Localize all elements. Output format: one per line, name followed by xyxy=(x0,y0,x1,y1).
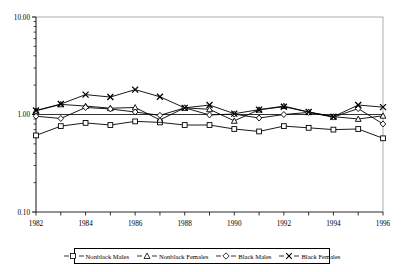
x-tick-label: 1992 xyxy=(277,220,292,228)
data-point xyxy=(182,123,187,128)
legend-label: Nonblack Males xyxy=(86,253,129,260)
chart-legend: Nonblack Males Nonblack Females Black xyxy=(74,248,330,264)
diamond-marker-icon xyxy=(216,251,236,261)
data-point xyxy=(306,125,311,130)
data-point xyxy=(256,115,262,121)
legend-label: Nonblack Females xyxy=(159,253,208,260)
y-tick-label: 1.00 xyxy=(17,111,30,119)
data-point xyxy=(34,133,39,138)
x-tick-label: 1982 xyxy=(29,220,44,228)
data-point xyxy=(58,124,63,129)
y-tick-label: 0.10 xyxy=(17,209,30,217)
line-chart: 10.001.000.10198219841986198819901992199… xyxy=(0,0,402,272)
data-point xyxy=(281,112,287,118)
y-tick-label: 10.00 xyxy=(14,14,31,22)
data-point xyxy=(380,113,386,118)
data-point xyxy=(83,104,89,110)
chart-page: 10.001.000.10198219841986198819901992199… xyxy=(0,0,402,272)
data-point xyxy=(380,121,386,127)
legend-item-nonblack-males[interactable]: Nonblack Males xyxy=(64,251,129,261)
triangle-marker-icon xyxy=(137,251,157,261)
legend-item-black-males[interactable]: Black Males xyxy=(216,251,271,261)
data-point xyxy=(157,94,163,100)
x-tick-label: 1988 xyxy=(178,220,193,228)
x-tick-label: 1984 xyxy=(78,220,93,228)
data-point xyxy=(157,112,163,118)
data-point xyxy=(331,127,336,132)
x-tick-label: 1996 xyxy=(376,220,391,228)
data-point xyxy=(281,124,286,129)
data-point xyxy=(83,121,88,126)
x-tick-label: 1986 xyxy=(128,220,143,228)
legend-item-black-females[interactable]: Black Females xyxy=(279,251,340,261)
legend-label: Black Females xyxy=(301,253,340,260)
legend-label: Black Males xyxy=(238,253,271,260)
data-point xyxy=(207,123,212,128)
square-marker-icon xyxy=(64,251,84,261)
data-point xyxy=(231,118,237,123)
data-point xyxy=(108,123,113,128)
series-nonblack-males xyxy=(34,119,386,141)
data-point xyxy=(132,87,138,93)
data-point xyxy=(381,136,386,141)
data-point xyxy=(207,112,213,118)
chart-canvas: 10.001.000.10198219841986198819901992199… xyxy=(0,0,402,240)
x-tick-label: 1994 xyxy=(326,220,341,228)
x-tick-label: 1990 xyxy=(227,220,242,228)
data-point xyxy=(133,119,138,124)
legend-item-nonblack-females[interactable]: Nonblack Females xyxy=(137,251,208,261)
cross-marker-icon xyxy=(279,251,299,261)
data-point xyxy=(58,115,64,121)
data-point xyxy=(257,129,262,134)
data-point xyxy=(356,127,361,132)
data-point xyxy=(232,127,237,132)
